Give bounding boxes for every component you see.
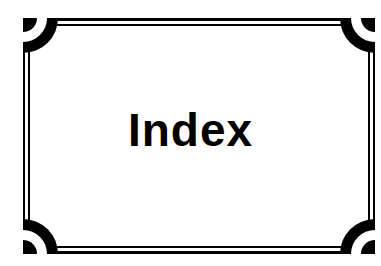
corner-ornament-top-left-icon — [23, 18, 58, 53]
corner-ornament-bottom-right-icon — [340, 219, 375, 254]
corner-ornament-bottom-left-icon — [23, 219, 58, 254]
page-title: Index — [0, 104, 381, 156]
corner-ornament-top-right-icon — [340, 18, 375, 53]
